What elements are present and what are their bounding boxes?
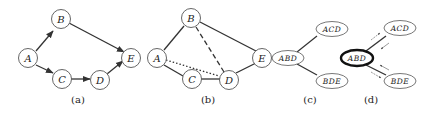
node-d: D [220, 71, 239, 90]
panel-d: ACD ABD BDE (d) [341, 21, 416, 106]
svg-text:A: A [23, 53, 31, 64]
edge-a-c [164, 65, 183, 76]
node-a: A [19, 49, 38, 68]
svg-text:B: B [186, 13, 194, 24]
edge-a-b [36, 31, 53, 51]
svg-text:E: E [257, 53, 266, 64]
node-bde: BDE [316, 74, 348, 89]
message-arrow-in-acd [381, 43, 389, 49]
node-c: C [53, 70, 72, 89]
caption-a: (a) [71, 94, 85, 105]
node-b: B [182, 9, 201, 28]
svg-text:ACD: ACD [390, 24, 410, 33]
svg-text:ACD: ACD [322, 25, 342, 34]
caption-d: (d) [364, 94, 378, 105]
figure: A B C D E (a) A [0, 0, 428, 116]
svg-text:C: C [58, 74, 66, 85]
panel-a: A B C D E (a) [19, 10, 141, 106]
edge-b-d-dashed [196, 27, 224, 72]
svg-text:BDE: BDE [390, 77, 410, 86]
node-acd: ACD [384, 21, 416, 36]
svg-text:A: A [152, 53, 160, 64]
edge-d-e [236, 63, 256, 73]
node-bde: BDE [384, 74, 416, 89]
node-b: B [52, 10, 71, 29]
svg-text:E: E [126, 53, 135, 64]
message-arrow-out-bde [371, 72, 381, 78]
svg-text:D: D [224, 75, 233, 86]
svg-text:B: B [56, 14, 64, 25]
edge-a-b [164, 26, 184, 50]
edge-b-e [69, 23, 124, 52]
edge-abd-bde [297, 64, 317, 75]
node-a: A [148, 49, 167, 68]
svg-text:ABD: ABD [347, 54, 366, 63]
edge-abd-acd [297, 36, 317, 52]
node-abd-root: ABD [341, 50, 373, 66]
caption-b: (b) [201, 94, 215, 105]
message-arrow-out-acd [371, 33, 380, 40]
node-e: E [253, 49, 272, 68]
edge-b-e [200, 22, 256, 51]
svg-text:ABD: ABD [278, 54, 297, 63]
svg-text:C: C [188, 74, 196, 85]
caption-c: (c) [303, 94, 317, 105]
node-c: C [183, 70, 202, 89]
node-d: D [91, 71, 110, 90]
node-e: E [122, 49, 141, 68]
message-arrow-in-bde [380, 65, 389, 70]
svg-text:D: D [95, 75, 104, 86]
edge-a-c [36, 65, 53, 73]
node-acd: ACD [316, 22, 348, 37]
panel-c: ACD ABD BDE (c) [272, 22, 348, 106]
node-abd: ABD [272, 51, 304, 66]
svg-text:BDE: BDE [322, 77, 342, 86]
panel-b: A B C D E (b) [148, 9, 272, 106]
edge-abd-acd [366, 36, 386, 51]
edge-d-e [107, 61, 123, 74]
